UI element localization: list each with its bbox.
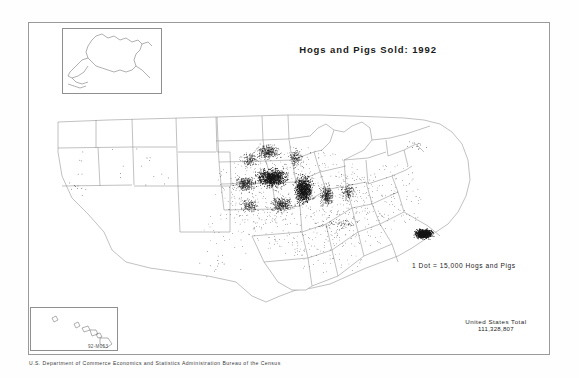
us-total-label: United States Total: [446, 318, 546, 325]
map-code: 92-M053: [88, 344, 108, 349]
alaska-outline: [68, 34, 152, 88]
conterminous-us-state-outlines: [58, 115, 470, 302]
legend-dot-value: 1 Dot = 15,000 Hogs and Pigs: [412, 262, 516, 269]
map-page: Hogs and Pigs Sold: 1992: [0, 0, 579, 378]
us-total-value: 111,328,807: [446, 326, 546, 332]
united-states-total: United States Total 111,328,807: [446, 318, 546, 332]
credit-line: U.S. Department of Commerce Economics an…: [29, 360, 281, 366]
